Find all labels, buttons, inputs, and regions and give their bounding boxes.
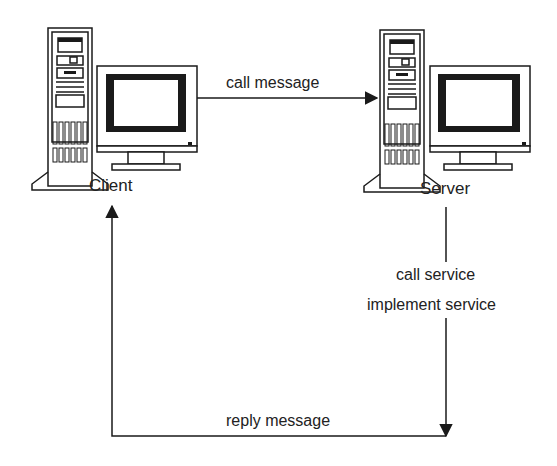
implement-service-label: implement service <box>367 296 496 314</box>
diagram-svg <box>0 0 557 466</box>
reply-message-label: reply message <box>226 412 330 430</box>
call-message-label: call message <box>226 74 319 92</box>
server-computer-icon <box>364 30 530 192</box>
client-label: Client <box>89 176 132 196</box>
call-service-label: call service <box>396 266 475 284</box>
diagram-canvas <box>0 0 557 466</box>
server-label: Server <box>420 179 470 199</box>
reply-message-arrow <box>112 206 446 436</box>
client-computer-icon <box>32 28 197 190</box>
